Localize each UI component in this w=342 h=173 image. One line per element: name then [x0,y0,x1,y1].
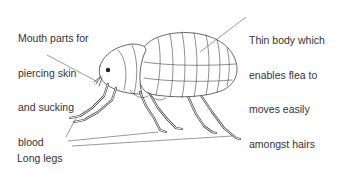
label-line: amongst hairs [249,139,325,151]
label-line: and sucking [18,102,89,114]
label-line: Thin body which [249,35,325,47]
flea-drawing [70,32,240,139]
label-line: piercing skin [18,68,89,80]
label-line: Mouth parts for [18,33,89,45]
label-thin-body: Thin body which enables flea to moves ea… [249,12,325,162]
label-line: enables flea to [249,70,325,82]
label-long-legs: Long legs for jumping from one person to… [17,130,144,173]
label-line: Long legs [17,153,144,165]
middle-leg-icon [140,92,182,132]
label-line: moves easily [249,104,325,116]
eye-icon [106,68,110,72]
